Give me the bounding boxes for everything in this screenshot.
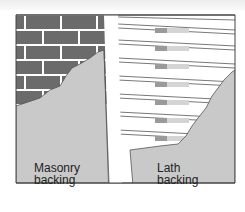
masonry-label: Masonry backing — [34, 162, 80, 186]
lath-label: Lath backing — [157, 162, 198, 186]
lath-label-line2: backing — [157, 174, 198, 186]
masonry-label-line2: backing — [34, 174, 80, 186]
